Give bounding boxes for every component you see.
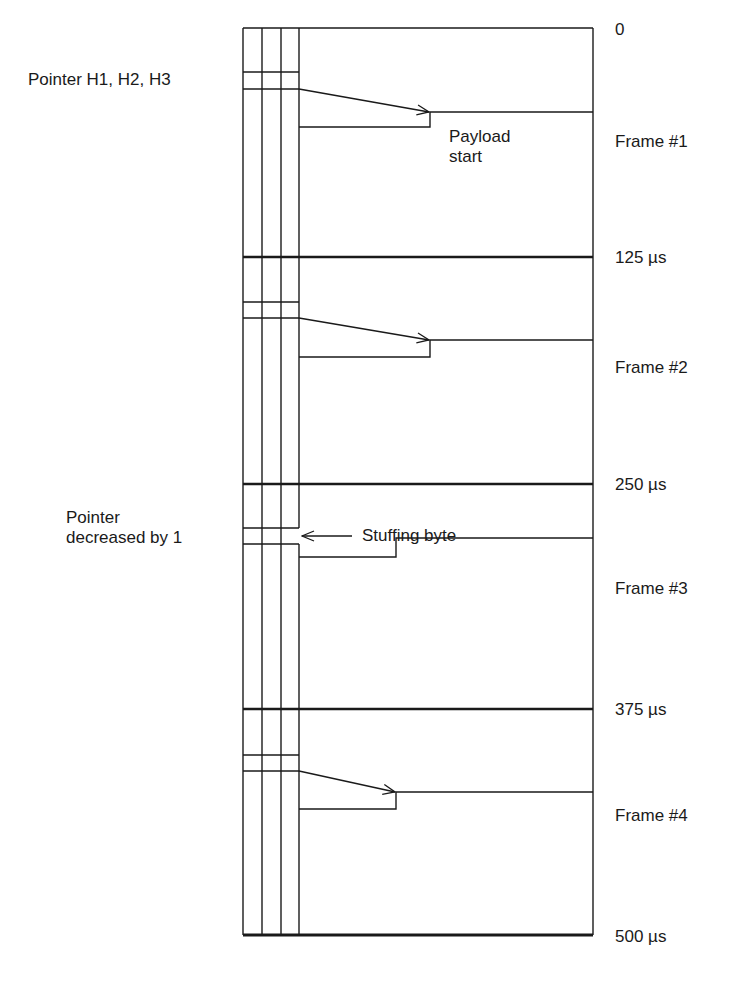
frame-1-label: Frame #1 [615, 132, 688, 152]
time-mark-250us: 250 µs [615, 475, 666, 495]
frame-2-structure [243, 302, 593, 357]
frame-3-label: Frame #3 [615, 579, 688, 599]
time-mark-0: 0 [615, 20, 624, 40]
payload-start-label: Payload start [449, 127, 510, 167]
frame-4-structure [243, 755, 593, 809]
pointer-arrow [299, 771, 395, 792]
time-mark-375us: 375 µs [615, 700, 666, 720]
pointer-arrow [299, 89, 429, 112]
frame-1-structure [243, 72, 593, 127]
pointer-h1-h2-h3-label: Pointer H1, H2, H3 [28, 70, 171, 90]
stuffing-byte-label: Stuffing byte [362, 526, 456, 546]
frame-2-label: Frame #2 [615, 358, 688, 378]
time-mark-125us: 125 µs [615, 248, 666, 268]
payload-start-step [299, 112, 593, 127]
pointer-arrow [299, 318, 429, 340]
payload-start-step [299, 792, 593, 809]
frame-4-label: Frame #4 [615, 806, 688, 826]
payload-start-step [299, 340, 593, 357]
time-mark-500us: 500 µs [615, 927, 666, 947]
pointer-decreased-label: Pointer decreased by 1 [66, 508, 182, 548]
